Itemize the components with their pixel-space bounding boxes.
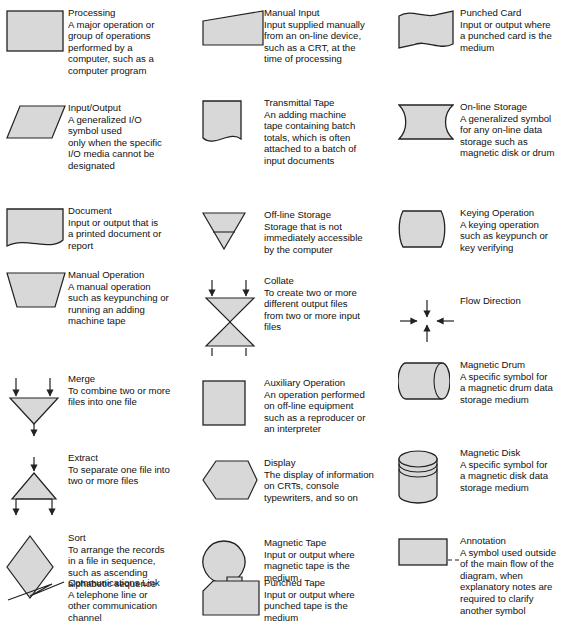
document-symbol bbox=[6, 208, 64, 250]
symbol-title: Input/Output bbox=[68, 102, 196, 114]
symbol-description: A generalized I/Osymbol usedonly when th… bbox=[68, 114, 196, 172]
symbol-title: Display bbox=[264, 457, 400, 469]
symbol-description: Input supplied manuallyfrom an on-line d… bbox=[264, 19, 400, 65]
symbol-description: Input or output wherepunched tape is the… bbox=[264, 589, 400, 624]
legend-text-offline-storage-symbol: Off-line StorageStorage that is notimmed… bbox=[264, 209, 400, 255]
legend-text-manual-operation-symbol: Manual OperationA manual operationsuch a… bbox=[68, 269, 196, 327]
description-line: a magnetic disk data bbox=[460, 470, 588, 482]
symbol-title: Merge bbox=[68, 373, 196, 385]
symbol-title: On-line Storage bbox=[460, 101, 588, 113]
symbol-title: Manual Input bbox=[264, 7, 400, 19]
processing-symbol bbox=[6, 10, 64, 52]
description-line: To separate one file into bbox=[68, 464, 196, 476]
description-line: Input or output where bbox=[460, 19, 588, 31]
description-line: a printed document or bbox=[68, 228, 196, 240]
description-line: magnetic tape is the bbox=[264, 560, 400, 572]
description-line: in a file in sequence, bbox=[68, 555, 196, 567]
symbol-description: An adding machinetape containing batchto… bbox=[264, 109, 400, 167]
legend-text-punched-tape-symbol: Punched TapeInput or output wherepunched… bbox=[264, 577, 400, 623]
description-line: To combine two or more bbox=[68, 385, 196, 397]
description-line: a magnetic drum data bbox=[460, 382, 588, 394]
description-line: by the computer bbox=[264, 244, 400, 256]
extract-symbol bbox=[6, 455, 62, 517]
annotation-symbol bbox=[398, 538, 464, 568]
description-line: tape containing batch bbox=[264, 120, 400, 132]
description-line: running an adding bbox=[68, 304, 196, 316]
description-line: Input supplied manually bbox=[264, 19, 400, 31]
description-line: Input or output where bbox=[264, 589, 400, 601]
legend-text-input-output-symbol: Input/OutputA generalized I/Osymbol used… bbox=[68, 102, 196, 172]
magnetic-tape-symbol bbox=[202, 540, 248, 584]
legend-text-flow-direction-symbol: Flow Direction bbox=[460, 295, 588, 307]
description-line: another symbol bbox=[460, 605, 588, 617]
description-line: two or more files bbox=[68, 475, 196, 487]
description-line: To create two or more bbox=[264, 287, 400, 299]
description-line: computer program bbox=[68, 65, 196, 77]
symbol-title: Flow Direction bbox=[460, 295, 588, 307]
symbol-title: Magnetic Tape bbox=[264, 537, 400, 549]
description-line: medium bbox=[264, 612, 400, 624]
auxiliary-operation-symbol bbox=[202, 380, 246, 426]
description-line: machine tape bbox=[68, 315, 196, 327]
column-middle: Manual InputInput supplied manuallyfrom … bbox=[196, 0, 392, 638]
description-line: An adding machine bbox=[264, 109, 400, 121]
description-line: such as a reproducer or bbox=[264, 412, 400, 424]
description-line: an interpreter bbox=[264, 423, 400, 435]
description-line: channel bbox=[68, 612, 196, 624]
description-line: A manual operation bbox=[68, 281, 196, 293]
description-line: time of processing bbox=[264, 53, 400, 65]
description-line: different output files bbox=[264, 298, 400, 310]
description-line: diagram, when bbox=[460, 570, 588, 582]
column-left: ProcessingA major operation orgroup of o… bbox=[0, 0, 196, 638]
description-line: required to clarify bbox=[460, 593, 588, 605]
description-line: The display of information bbox=[264, 469, 400, 481]
description-line: medium bbox=[460, 42, 588, 54]
description-line: storage medium bbox=[460, 394, 588, 406]
legend-text-merge-symbol: MergeTo combine two or morefiles into on… bbox=[68, 373, 196, 408]
description-line: on off-line equipment bbox=[264, 400, 400, 412]
description-line: A specific symbol for bbox=[460, 371, 588, 383]
symbol-title: Keying Operation bbox=[460, 207, 588, 219]
description-line: Input or output where bbox=[264, 549, 400, 561]
legend-text-punched-card-symbol: Punched CardInput or output wherea punch… bbox=[460, 7, 588, 53]
description-line: magnetic disk or drum bbox=[460, 147, 588, 159]
description-line: only when the specific bbox=[68, 137, 196, 149]
legend-text-display-symbol: DisplayThe display of informationon CRTs… bbox=[264, 457, 400, 503]
description-line: designated bbox=[68, 160, 196, 172]
magnetic-drum-symbol bbox=[398, 362, 450, 400]
symbol-description: To separate one file intotwo or more fil… bbox=[68, 464, 196, 487]
punched-card-symbol bbox=[398, 10, 454, 52]
legend-text-keying-operation-symbol: Keying OperationA keying operationsuch a… bbox=[460, 207, 588, 253]
symbol-title: Annotation bbox=[460, 535, 588, 547]
offline-storage-symbol bbox=[202, 212, 246, 250]
description-line: other communication bbox=[68, 600, 196, 612]
symbol-description: A specific symbol fora magnetic disk dat… bbox=[460, 459, 588, 494]
column-right: Punched CardInput or output wherea punch… bbox=[392, 0, 588, 638]
symbol-title: Off-line Storage bbox=[264, 209, 400, 221]
description-line: symbol used bbox=[68, 125, 196, 137]
display-symbol bbox=[202, 460, 258, 500]
symbol-description: An operation performedon off-line equipm… bbox=[264, 389, 400, 435]
symbol-description: Input or output wherea punched card is t… bbox=[460, 19, 588, 54]
description-line: Storage that is not bbox=[264, 221, 400, 233]
description-line: explanatory notes are bbox=[460, 581, 588, 593]
keying-operation-symbol bbox=[398, 210, 446, 248]
symbol-description: A symbol used outsideof the main flow of… bbox=[460, 547, 588, 617]
description-line: A generalized symbol bbox=[460, 113, 588, 125]
symbol-title: Sort bbox=[68, 532, 196, 544]
description-line: of the main flow of the bbox=[460, 558, 588, 570]
description-line: A telephone line or bbox=[68, 589, 196, 601]
description-line: such as keypunch or bbox=[460, 230, 588, 242]
symbol-description: To combine two or morefiles into one fil… bbox=[68, 385, 196, 408]
symbol-title: Collate bbox=[264, 275, 400, 287]
flowchart-symbols-legend: ProcessingA major operation orgroup of o… bbox=[0, 0, 588, 638]
description-line: key verifying bbox=[460, 242, 588, 254]
online-storage-symbol bbox=[398, 104, 454, 140]
description-line: computer, such as a bbox=[68, 53, 196, 65]
communications-link-symbol bbox=[6, 580, 68, 606]
manual-input-symbol bbox=[202, 10, 264, 46]
symbol-title: Magnetic Drum bbox=[460, 359, 588, 371]
symbol-title: Transmittal Tape bbox=[264, 97, 400, 109]
description-line: A specific symbol for bbox=[460, 459, 588, 471]
legend-text-collate-symbol: CollateTo create two or moredifferent ou… bbox=[264, 275, 400, 333]
